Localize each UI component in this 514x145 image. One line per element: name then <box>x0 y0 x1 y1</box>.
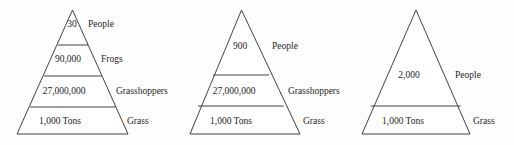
pyramid-1-label-people: People <box>88 19 114 29</box>
pyramid-3-group: 2,000 People 1,000 Tons Grass <box>362 10 495 134</box>
pyramid-2-amount-people: 900 <box>233 41 248 51</box>
pyramid-1-amount-people: 30 <box>67 19 77 29</box>
energy-pyramid-figure: 30 People 90,000 Frogs 27,000,000 Grassh… <box>0 0 514 145</box>
pyramid-2-label-grasshoppers: Grasshoppers <box>288 86 340 96</box>
pyramid-3-amount-people: 2,000 <box>398 70 420 80</box>
pyramid-1-amount-grass: 1,000 Tons <box>39 116 81 126</box>
pyramid-2-label-grass: Grass <box>303 116 325 126</box>
pyramid-1-label-frogs: Frogs <box>101 54 123 64</box>
pyramid-2-amount-grass: 1,000 Tons <box>210 116 252 126</box>
pyramids-canvas: 30 People 90,000 Frogs 27,000,000 Grassh… <box>0 0 514 145</box>
pyramid-1-amount-grasshoppers: 27,000,000 <box>43 86 86 96</box>
pyramid-1-label-grass: Grass <box>127 116 149 126</box>
pyramid-2-amount-grasshoppers: 27,000,000 <box>213 86 256 96</box>
pyramid-1-group: 30 People 90,000 Frogs 27,000,000 Grassh… <box>17 10 168 134</box>
pyramid-2-label-people: People <box>272 41 298 51</box>
pyramid-3-label-people: People <box>455 70 481 80</box>
pyramid-3-label-grass: Grass <box>473 116 495 126</box>
pyramid-1-label-grasshoppers: Grasshoppers <box>116 86 168 96</box>
pyramid-3-amount-grass: 1,000 Tons <box>382 116 424 126</box>
pyramid-2-group: 900 People 27,000,000 Grasshoppers 1,000… <box>190 10 340 134</box>
pyramid-1-amount-frogs: 90,000 <box>55 54 81 64</box>
